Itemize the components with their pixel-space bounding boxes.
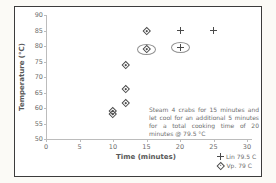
legend-label: Vp. 79 C bbox=[227, 161, 252, 170]
y-tick-mark bbox=[44, 15, 46, 16]
y-axis-line bbox=[46, 15, 47, 139]
legend-item: Vp. 79 C bbox=[217, 161, 256, 170]
diamond-marker bbox=[122, 60, 130, 68]
x-tick-mark bbox=[113, 139, 114, 142]
y-tick-label: 70 bbox=[28, 73, 43, 81]
annotation-text: Steam 4 crabs for 15 minutes and let coo… bbox=[149, 106, 259, 138]
y-tick-mark bbox=[44, 124, 46, 125]
x-tick-label: 25 bbox=[209, 143, 217, 151]
x-tick-label: 20 bbox=[176, 143, 184, 151]
x-tick-label: 15 bbox=[142, 143, 150, 151]
chart-frame: 051015202530908580757065605550 Temperatu… bbox=[14, 6, 262, 177]
x-tick-mark bbox=[80, 139, 81, 142]
y-tick-label: 75 bbox=[28, 58, 43, 66]
plot-area: 051015202530908580757065605550 bbox=[15, 7, 261, 176]
x-tick-label: 5 bbox=[77, 143, 81, 151]
x-tick-label: 10 bbox=[109, 143, 117, 151]
y-tick-mark bbox=[44, 93, 46, 94]
x-tick-label: 30 bbox=[243, 143, 251, 151]
x-tick-mark bbox=[214, 139, 215, 142]
x-tick-mark bbox=[46, 139, 47, 142]
y-tick-mark bbox=[44, 139, 46, 140]
y-tick-mark bbox=[44, 62, 46, 63]
y-tick-label: 80 bbox=[28, 42, 43, 50]
legend-item: Lin 79.5 C bbox=[217, 152, 256, 161]
y-tick-mark bbox=[44, 77, 46, 78]
y-tick-mark bbox=[44, 31, 46, 32]
x-tick-mark bbox=[147, 139, 148, 142]
diamond-legend-icon bbox=[217, 162, 225, 170]
x-axis-title: Time (minutes) bbox=[116, 153, 176, 161]
y-tick-label: 85 bbox=[28, 27, 43, 35]
x-tick-mark bbox=[180, 139, 181, 142]
x-tick-label: 0 bbox=[44, 143, 48, 151]
legend: Lin 79.5 CVp. 79 C bbox=[217, 152, 256, 170]
y-tick-label: 50 bbox=[28, 135, 43, 143]
plus-marker bbox=[177, 27, 184, 34]
x-tick-mark bbox=[247, 139, 248, 142]
y-tick-label: 65 bbox=[28, 89, 43, 97]
diamond-marker bbox=[142, 26, 150, 34]
y-tick-label: 90 bbox=[28, 11, 43, 19]
y-tick-label: 60 bbox=[28, 104, 43, 112]
plus-marker bbox=[210, 27, 217, 34]
diamond-marker bbox=[122, 99, 130, 107]
y-tick-mark bbox=[44, 108, 46, 109]
y-tick-label: 55 bbox=[28, 120, 43, 128]
y-axis-title: Temperature (°C) bbox=[18, 43, 26, 111]
plus-legend-icon bbox=[217, 153, 224, 160]
diamond-marker bbox=[122, 85, 130, 93]
y-tick-mark bbox=[44, 46, 46, 47]
plus-marker bbox=[177, 44, 184, 51]
legend-label: Lin 79.5 C bbox=[226, 152, 256, 161]
x-axis-line bbox=[46, 139, 252, 140]
